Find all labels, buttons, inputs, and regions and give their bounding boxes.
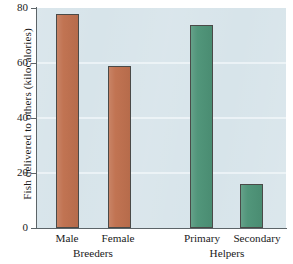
- x-label-female: Female: [87, 232, 149, 244]
- group-label-helpers: Helpers: [196, 247, 258, 259]
- y-tick-80: [31, 8, 37, 9]
- y-tick-label-40: 40: [0, 111, 28, 123]
- x-label-secondary: Secondary: [222, 232, 292, 244]
- plot-area: [37, 8, 286, 228]
- y-tick-label-60: 60: [0, 56, 28, 68]
- y-tick-60: [31, 63, 37, 64]
- bar-sheen: [191, 26, 212, 228]
- bar-male: [56, 14, 79, 229]
- bar-female: [108, 66, 131, 228]
- y-tick-label-80: 80: [0, 1, 28, 13]
- y-tick-label-20: 20: [0, 166, 28, 178]
- group-label-breeders: Breeders: [62, 247, 124, 259]
- y-tick-40: [31, 118, 37, 119]
- bar-sheen: [57, 15, 78, 228]
- bar-primary: [190, 25, 213, 229]
- bar-secondary: [240, 184, 263, 228]
- y-tick-0: [31, 228, 37, 229]
- bar-sheen: [109, 67, 130, 227]
- bar-chart-figure: Fish delivered to others (kilocalories) …: [0, 0, 293, 264]
- y-tick-label-0: 0: [0, 221, 28, 233]
- bar-sheen: [241, 185, 262, 227]
- y-tick-20: [31, 173, 37, 174]
- x-axis-line: [36, 228, 287, 229]
